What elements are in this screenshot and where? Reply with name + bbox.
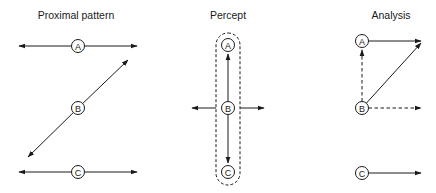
percept-node-c: C xyxy=(222,166,235,179)
analysis-arrow-2 xyxy=(366,43,421,103)
proximal-node-a: A xyxy=(72,40,85,53)
diagram-canvas: ABCABCABC xyxy=(0,0,436,193)
node-layer: ABCABCABC xyxy=(72,35,369,180)
node-label: A xyxy=(225,41,231,51)
percept-node-a: A xyxy=(222,39,235,52)
proximal-arrow-2 xyxy=(83,60,128,103)
analysis-node-a: A xyxy=(356,35,369,48)
node-label: C xyxy=(75,168,82,178)
node-label: B xyxy=(225,104,231,114)
proximal-node-c: C xyxy=(72,166,85,179)
analysis-node-c: C xyxy=(356,167,369,180)
node-label: C xyxy=(359,169,366,179)
node-label: A xyxy=(75,42,81,52)
proximal-arrow-3 xyxy=(28,113,73,157)
node-label: B xyxy=(75,104,81,114)
node-label: B xyxy=(359,104,365,114)
node-label: C xyxy=(225,168,232,178)
proximal-node-b: B xyxy=(72,102,85,115)
analysis-node-b: B xyxy=(356,102,369,115)
percept-node-b: B xyxy=(222,102,235,115)
node-label: A xyxy=(359,37,365,47)
